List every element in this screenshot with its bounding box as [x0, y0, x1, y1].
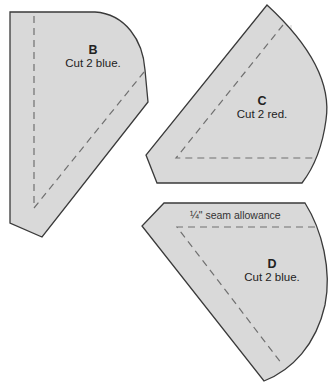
piece-c-letter: C [227, 95, 297, 108]
piece-d-label: D Cut 2 blue. [236, 258, 308, 284]
piece-c-shape [146, 5, 327, 183]
piece-b-instruction: Cut 2 blue. [65, 57, 121, 69]
piece-b-label: B Cut 2 blue. [58, 44, 128, 70]
templates-canvas [0, 0, 335, 387]
piece-c-label: C Cut 2 red. [227, 95, 297, 121]
piece-d-instruction: Cut 2 blue. [244, 271, 300, 283]
seam-allowance-label: ¼" seam allowance [190, 209, 281, 221]
piece-b-letter: B [58, 44, 128, 57]
piece-c-instruction: Cut 2 red. [237, 108, 288, 120]
piece-d-letter: D [236, 258, 308, 271]
piece-d-shape [142, 203, 327, 381]
